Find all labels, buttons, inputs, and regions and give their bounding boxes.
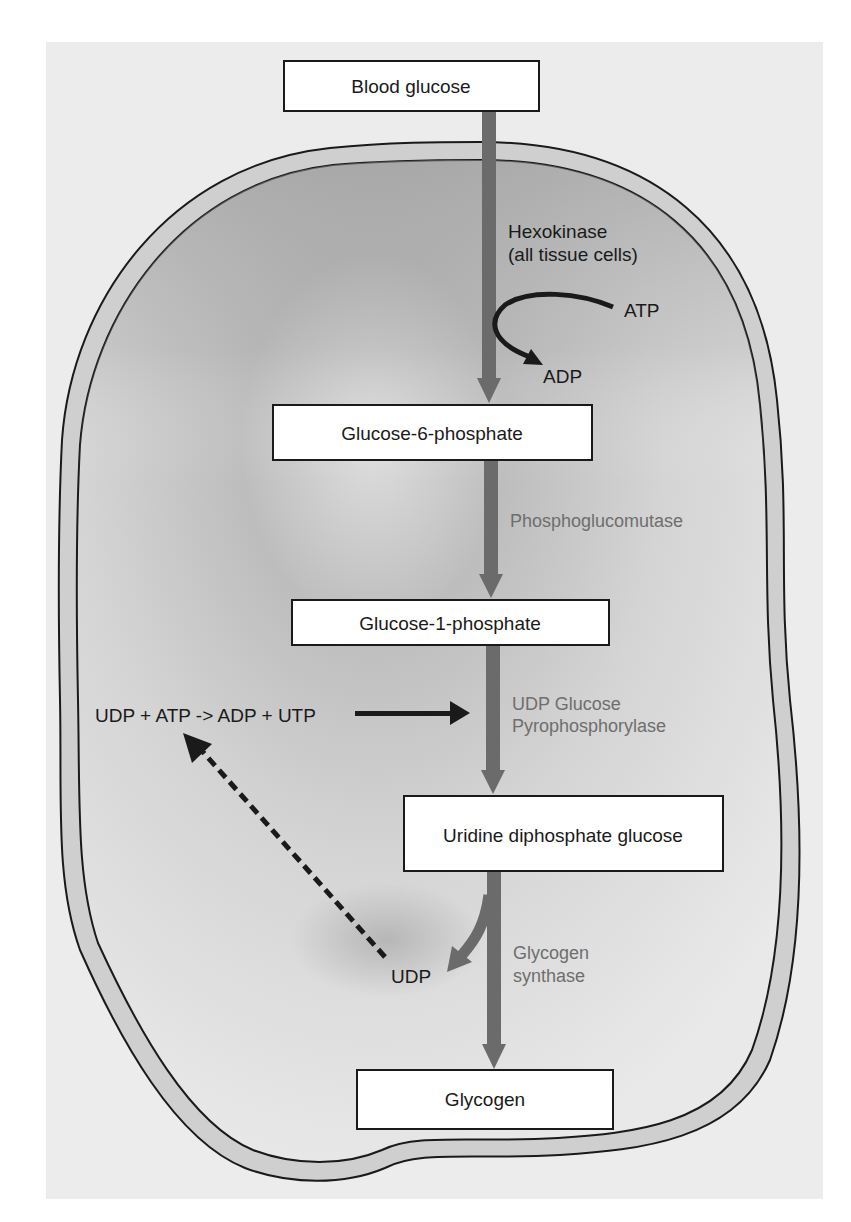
cofactor-udp: UDP — [391, 966, 431, 987]
utp-regeneration-equation: UDP + ATP -> ADP + UTP — [95, 705, 316, 726]
enzyme-hexokinase-line2: (all tissue cells) — [508, 244, 638, 265]
node-glucose-6-phosphate: Glucose-6-phosphate — [273, 405, 592, 460]
enzyme-glycogen-synthase-line2: synthase — [513, 966, 585, 986]
cofactor-adp: ADP — [543, 366, 582, 387]
enzyme-hexokinase-line1: Hexokinase — [508, 221, 607, 242]
node-label: Glycogen — [445, 1089, 525, 1110]
node-blood-glucose: Blood glucose — [284, 61, 539, 111]
enzyme-udp-pyrophosphorylase-line1: UDP Glucose — [512, 694, 621, 714]
arrow-shaft-udp-pyrophosphorylase — [486, 645, 500, 771]
node-label: Glucose-1-phosphate — [359, 613, 541, 634]
glycogenesis-diagram: Blood glucose Glucose-6-phosphate Glucos… — [0, 0, 851, 1222]
node-label: Uridine diphosphate glucose — [443, 825, 683, 846]
node-glycogen: Glycogen — [357, 1070, 613, 1129]
arrow-shaft-phosphoglucomutase — [484, 460, 498, 576]
node-label: Blood glucose — [351, 76, 470, 97]
enzyme-glycogen-synthase-line1: Glycogen — [513, 943, 589, 963]
node-label: Glucose-6-phosphate — [341, 423, 523, 444]
node-udp-glucose: Uridine diphosphate glucose — [404, 796, 723, 871]
node-glucose-1-phosphate: Glucose-1-phosphate — [292, 600, 609, 645]
enzyme-udp-pyrophosphorylase-line2: Pyrophosphorylase — [512, 716, 666, 736]
utp-arrow-shaft — [355, 711, 453, 716]
cofactor-atp: ATP — [624, 300, 660, 321]
enzyme-phosphoglucomutase: Phosphoglucomutase — [510, 511, 683, 531]
arrow-shaft-hexokinase — [482, 111, 496, 381]
